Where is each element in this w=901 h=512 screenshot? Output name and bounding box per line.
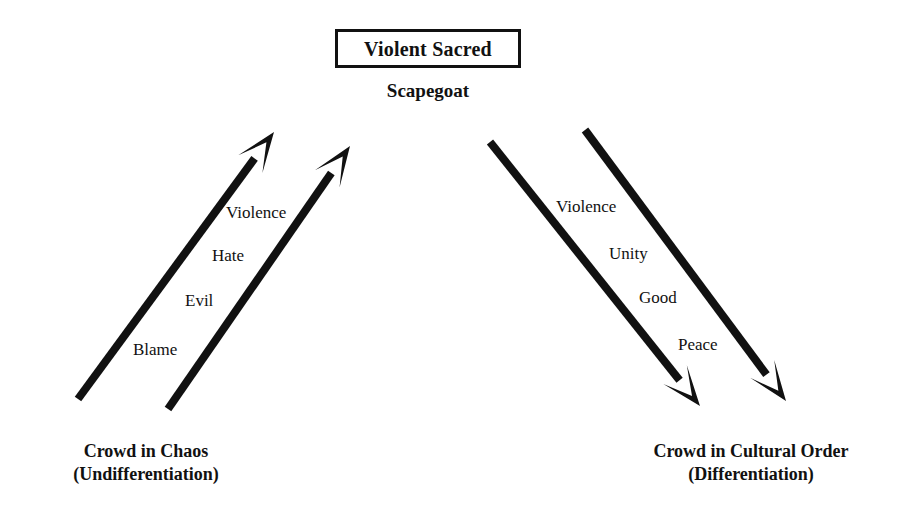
right-inner-arrow-down-shaft xyxy=(490,142,680,380)
right-group-caption: Crowd in Cultural Order (Differentiation… xyxy=(612,440,890,486)
left-group-caption-line2: (Undifferentiation) xyxy=(10,463,282,486)
right-stage-label-0: Violence xyxy=(556,198,616,215)
right-stage-label-3: Peace xyxy=(678,336,718,353)
right-stage-label-1: Unity xyxy=(609,245,648,262)
left-inner-arrow-up-head xyxy=(315,146,350,187)
violent-sacred-label: Violent Sacred xyxy=(364,39,492,59)
diagram-canvas: Violent Sacred Scapegoat Violence Hate E… xyxy=(0,0,901,512)
left-stage-label-2: Evil xyxy=(185,292,213,309)
left-stage-label-3: Blame xyxy=(133,341,177,358)
right-stage-label-2: Good xyxy=(639,289,677,306)
left-group-caption: Crowd in Chaos (Undifferentiation) xyxy=(10,440,282,486)
right-inner-arrow-down-head xyxy=(663,365,700,406)
left-group-caption-line1: Crowd in Chaos xyxy=(10,440,282,463)
violent-sacred-box: Violent Sacred xyxy=(335,29,521,68)
left-outer-arrow-up-head xyxy=(238,132,274,173)
right-group-caption-line1: Crowd in Cultural Order xyxy=(612,440,890,463)
scapegoat-label: Scapegoat xyxy=(335,81,521,102)
left-stage-label-0: Violence xyxy=(226,204,286,221)
left-stage-label-1: Hate xyxy=(212,247,244,264)
arrow-layer xyxy=(0,0,901,512)
left-outer-arrow-up-shaft xyxy=(78,158,255,399)
right-group-caption-line2: (Differentiation) xyxy=(612,463,890,486)
right-outer-arrow-down-head xyxy=(750,360,786,401)
